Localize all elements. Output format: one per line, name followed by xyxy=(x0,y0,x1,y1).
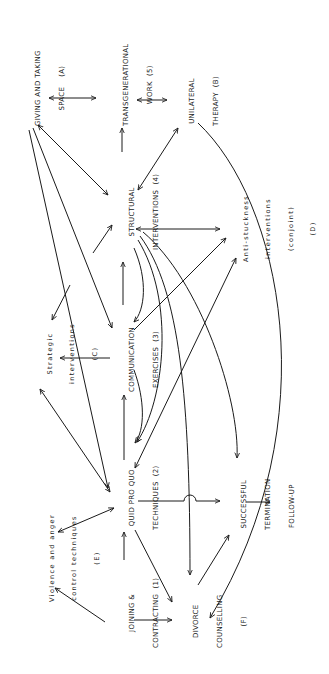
node-line: Violence and anger xyxy=(49,514,56,602)
node-line: JOINING & xyxy=(128,578,136,648)
edge-strategic-quidproquo xyxy=(40,389,110,492)
node-line: DIVORCE xyxy=(192,595,200,648)
node-line: COMMUNICATION xyxy=(128,327,136,392)
node-line: (D) xyxy=(310,195,317,262)
node-giving-taking-space: GIVING AND TAKING SPACE (A) xyxy=(18,50,74,126)
edge-communication-structural-diag xyxy=(93,225,112,253)
node-line: FOLLOW-UP xyxy=(288,484,296,528)
node-line: INTERVENTIONS (4) xyxy=(152,174,160,250)
node-line: STRUCTURAL xyxy=(128,174,136,250)
node-line: CONTRACTING (1) xyxy=(152,578,160,648)
node-line: interventions xyxy=(69,323,76,384)
node-line: QUID PRO QUO xyxy=(128,465,136,530)
edge-giving-communication xyxy=(33,128,112,328)
node-line: THERAPY (B) xyxy=(212,76,220,126)
node-joining-contracting: JOINING & CONTRACTING (1) xyxy=(112,578,168,648)
node-line: COUNSELLING xyxy=(216,595,224,648)
edge-giving-structural xyxy=(38,125,108,195)
node-violence-anger-control: Violence and anger control techniques (E… xyxy=(34,514,109,602)
node-quid-pro-quo-techniques: QUID PRO QUO TECHNIQUES (2) xyxy=(112,465,168,530)
node-line: Strategic xyxy=(47,323,54,384)
node-line: control techniques xyxy=(71,514,78,602)
node-line: (C) xyxy=(92,323,99,384)
node-line: UNILATERAL xyxy=(188,76,196,126)
node-line: SPACE (A) xyxy=(58,50,66,126)
node-line: (F) xyxy=(240,595,248,648)
node-line: GIVING AND TAKING xyxy=(34,50,42,126)
edge-divorce-successful xyxy=(198,535,229,585)
edge-communication-antistuck xyxy=(134,238,226,330)
node-line: (conjoint) xyxy=(288,195,295,262)
node-divorce-counselling: DIVORCE COUNSELLING (F) xyxy=(176,595,256,648)
node-line: TRANSGENERATIONAL xyxy=(122,43,130,126)
node-line: (E) xyxy=(94,514,101,602)
node-line: Anti-stuckness xyxy=(243,195,250,262)
node-strategic-interventions: Strategic interventions (C) xyxy=(32,323,107,384)
node-line: TECHNIQUES (2) xyxy=(152,465,160,530)
node-communication-exercises: COMMUNICATION EXERCISES (3) xyxy=(112,327,168,392)
node-transgenerational-work: TRANSGENERATIONAL WORK (5) xyxy=(106,43,162,126)
node-anti-stuckness-interventions: Anti-stuckness interventions (conjoint) … xyxy=(228,195,325,262)
node-line: EXERCISES (3) xyxy=(152,327,160,392)
node-unilateral-therapy: UNILATERAL THERAPY (B) xyxy=(172,76,228,126)
node-structural-interventions: STRUCTURAL INTERVENTIONS (4) xyxy=(112,174,168,250)
node-line: interventions xyxy=(265,195,272,262)
node-follow-up: FOLLOW-UP xyxy=(272,484,304,528)
edge-structural-communication-curve xyxy=(134,248,143,322)
node-line: WORK (5) xyxy=(146,43,154,126)
node-line: SUCCESSFUL xyxy=(240,478,248,530)
